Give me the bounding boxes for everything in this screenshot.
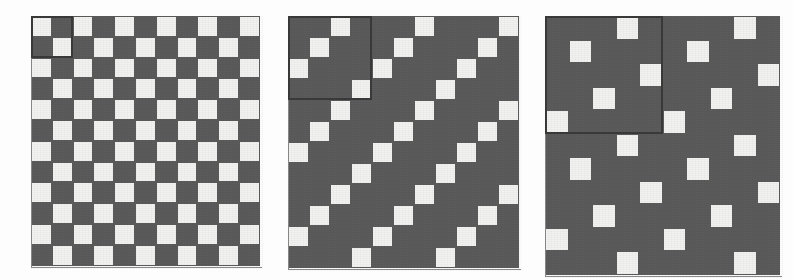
weft-float-cell (436, 143, 455, 162)
weft-float-cell (289, 122, 308, 141)
weft-float-cell (373, 164, 392, 183)
warp-float-cell (499, 101, 518, 120)
weft-float-cell (664, 41, 686, 63)
weft-float-cell (593, 135, 615, 157)
weft-float-cell (310, 185, 329, 204)
warp-float-cell (310, 122, 329, 141)
warp-float-cell (394, 206, 413, 225)
weft-float-cell (570, 17, 592, 39)
warp-float-cell (310, 206, 329, 225)
weft-float-cell (664, 88, 686, 110)
weft-float-cell (758, 252, 780, 274)
weft-float-cell (289, 17, 308, 36)
warp-float-cell (457, 143, 476, 162)
weft-float-cell (593, 17, 615, 39)
weft-float-cell (734, 111, 756, 133)
weft-float-cell (115, 246, 134, 265)
weft-float-cell (115, 121, 134, 140)
warp-float-cell (136, 163, 155, 182)
warp-float-cell (32, 142, 51, 161)
weft-float-cell (115, 204, 134, 223)
weft-float-cell (570, 88, 592, 110)
weave-grid-plain (31, 16, 260, 266)
warp-float-cell (178, 79, 197, 98)
weft-float-cell (157, 204, 176, 223)
warp-float-cell (478, 206, 497, 225)
weft-float-cell (478, 164, 497, 183)
warp-float-cell (240, 183, 259, 202)
weft-float-cell (457, 17, 476, 36)
weft-float-cell (157, 38, 176, 57)
warp-float-cell (640, 64, 662, 86)
warp-float-cell (94, 246, 113, 265)
weft-float-cell (570, 135, 592, 157)
warp-float-cell (198, 225, 217, 244)
weft-float-cell (415, 38, 434, 57)
weft-float-cell (32, 204, 51, 223)
weft-float-cell (687, 205, 709, 227)
weft-float-cell (331, 206, 350, 225)
weft-float-cell (499, 59, 518, 78)
warp-float-cell (373, 59, 392, 78)
warp-float-cell (198, 59, 217, 78)
weft-float-cell (157, 163, 176, 182)
weft-float-cell (734, 229, 756, 251)
weft-float-cell (352, 101, 371, 120)
warp-float-cell (74, 59, 93, 78)
weft-float-cell (94, 183, 113, 202)
warp-float-cell (711, 88, 733, 110)
warp-float-cell (115, 100, 134, 119)
warp-float-cell (115, 59, 134, 78)
warp-float-cell (32, 225, 51, 244)
weft-float-cell (32, 163, 51, 182)
weft-float-cell (415, 227, 434, 246)
weave-diagram-figure: Plain weave Twill weave Satin weave (0, 0, 793, 280)
weft-float-cell (136, 183, 155, 202)
warp-float-cell (499, 185, 518, 204)
weft-float-cell (415, 80, 434, 99)
warp-float-cell (478, 122, 497, 141)
warp-float-cell (219, 163, 238, 182)
weft-float-cell (640, 252, 662, 274)
weft-float-cell (546, 135, 568, 157)
weft-float-cell (240, 121, 259, 140)
weft-float-cell (240, 246, 259, 265)
weft-float-cell (394, 59, 413, 78)
warp-float-cell (546, 111, 568, 133)
warp-float-cell (198, 183, 217, 202)
weft-float-cell (53, 100, 72, 119)
warp-float-cell (32, 183, 51, 202)
weft-float-cell (352, 122, 371, 141)
warp-float-cell (219, 79, 238, 98)
warp-float-cell (711, 205, 733, 227)
warp-float-cell (178, 38, 197, 57)
warp-float-cell (219, 246, 238, 265)
warp-float-cell (32, 59, 51, 78)
weft-float-cell (178, 225, 197, 244)
weft-float-cell (758, 17, 780, 39)
warp-float-cell (157, 225, 176, 244)
weft-float-cell (546, 252, 568, 274)
weft-float-cell (436, 122, 455, 141)
warp-float-cell (240, 100, 259, 119)
weft-float-cell (219, 100, 238, 119)
weft-float-cell (289, 101, 308, 120)
weft-float-cell (593, 182, 615, 204)
weft-float-cell (94, 59, 113, 78)
warp-float-cell (593, 88, 615, 110)
warp-float-cell (593, 205, 615, 227)
warp-float-cell (178, 121, 197, 140)
weft-float-cell (415, 122, 434, 141)
warp-float-cell (436, 248, 455, 267)
weft-float-cell (178, 17, 197, 36)
warp-float-cell (436, 164, 455, 183)
warp-float-cell (74, 225, 93, 244)
weft-float-cell (436, 101, 455, 120)
weft-float-cell (436, 227, 455, 246)
weft-float-cell (394, 143, 413, 162)
weft-float-cell (394, 80, 413, 99)
weft-float-cell (711, 17, 733, 39)
weft-float-cell (687, 88, 709, 110)
warp-float-cell (664, 229, 686, 251)
weft-float-cell (219, 183, 238, 202)
